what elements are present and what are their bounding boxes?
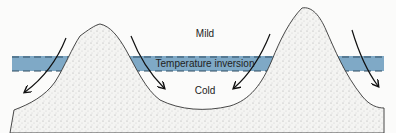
label-temperature-inversion: Temperature inversion — [156, 58, 255, 69]
label-mild: Mild — [196, 28, 214, 39]
label-cold: Cold — [195, 85, 216, 96]
